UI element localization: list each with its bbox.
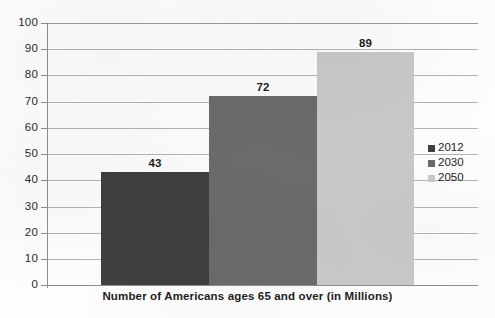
legend-label-2030: 2030: [438, 157, 464, 169]
gridline-90: [47, 49, 478, 50]
y-axis-label-10: 10: [25, 252, 38, 264]
y-axis-label-100: 100: [18, 16, 38, 28]
y-axis-label-60: 60: [25, 121, 38, 133]
y-tick-0: [41, 285, 47, 286]
bar-2012: [101, 172, 209, 285]
x-axis-title: Number of Americans ages 65 and over (in…: [0, 290, 495, 302]
y-tick-10: [41, 259, 47, 260]
y-tick-60: [41, 128, 47, 129]
y-tick-30: [41, 207, 47, 208]
y-tick-40: [41, 180, 47, 181]
y-axis-label-30: 30: [25, 200, 38, 212]
plot-area: 43 72 89: [47, 23, 478, 285]
y-tick-90: [41, 49, 47, 50]
y-tick-100: [41, 23, 47, 24]
legend-item-2030[interactable]: 2030: [428, 156, 464, 170]
bar-2030: [209, 96, 317, 285]
y-axis-label-70: 70: [25, 95, 38, 107]
legend-label-2050: 2050: [438, 172, 464, 184]
legend-item-2050[interactable]: 2050: [428, 171, 464, 185]
legend-item-2012[interactable]: 2012: [428, 141, 464, 155]
legend: 2012 2030 2050: [428, 141, 464, 186]
bar-value-2030: 72: [209, 81, 317, 93]
y-tick-80: [41, 75, 47, 76]
y-tick-20: [41, 233, 47, 234]
bar-value-2012: 43: [101, 157, 209, 169]
bar-2050: [317, 52, 414, 285]
y-axis-labels: 100 90 80 70 60 50 40 30 20 10 0: [0, 0, 38, 318]
y-axis-label-80: 80: [25, 68, 38, 80]
legend-swatch-icon-2050: [428, 175, 435, 182]
y-tick-50: [41, 154, 47, 155]
y-axis-label-50: 50: [25, 147, 38, 159]
gridline-100: [47, 23, 478, 24]
legend-swatch-icon-2030: [428, 160, 435, 167]
legend-label-2012: 2012: [438, 142, 464, 154]
legend-swatch-icon-2012: [428, 145, 435, 152]
y-axis-label-20: 20: [25, 226, 38, 238]
y-tick-70: [41, 102, 47, 103]
bar-chart: 43 72 89 100 90 80 70 60 50 40 30 20 10 …: [0, 0, 495, 318]
y-axis-label-40: 40: [25, 173, 38, 185]
y-axis-line: [47, 23, 48, 288]
bar-value-2050: 89: [317, 37, 414, 49]
gridline-0: [47, 285, 478, 286]
y-axis-label-90: 90: [25, 42, 38, 54]
y-axis-label-0: 0: [31, 278, 38, 290]
